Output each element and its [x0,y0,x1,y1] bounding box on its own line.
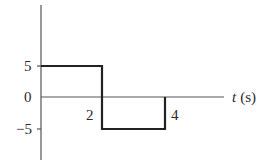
y-tick-label-0: 0 [24,89,32,105]
x-tick-label-4: 4 [171,107,179,123]
y-tick-label-neg5: −5 [16,121,32,137]
x-axis-label: t(s) [232,89,256,106]
chart: 5 0 −5 2 4 t(s) [0,0,269,161]
x-axis-label-unit: (s) [240,89,256,106]
y-tick-label-5: 5 [24,58,32,74]
x-tick-label-2: 2 [86,107,94,123]
x-axis-label-var: t [232,89,237,105]
